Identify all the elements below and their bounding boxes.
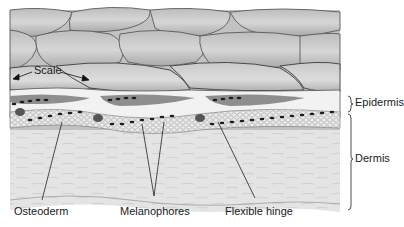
label-epidermis: Epidermis bbox=[355, 96, 404, 108]
layer-brackets bbox=[348, 96, 353, 210]
label-scale: Scale bbox=[34, 64, 62, 76]
label-osteoderm: Osteoderm bbox=[14, 205, 68, 217]
label-dermis: Dermis bbox=[355, 152, 390, 164]
label-melanophores: Melanophores bbox=[120, 205, 190, 217]
skin-block bbox=[10, 7, 340, 212]
label-flexible-hinge: Flexible hinge bbox=[225, 205, 293, 217]
